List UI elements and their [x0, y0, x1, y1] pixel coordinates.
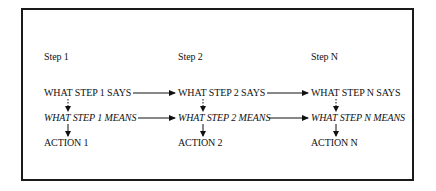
step-1-action: ACTION 1: [44, 137, 88, 149]
step-n-means: WHAT STEP N MEANS: [311, 112, 405, 124]
step-2-means: WHAT STEP 2 MEANS: [178, 112, 270, 124]
step-n-label: Step N: [311, 51, 338, 63]
step-1-label: Step 1: [44, 51, 69, 63]
step-2-says: WHAT STEP 2 SAYS: [178, 87, 265, 99]
step-1-says: WHAT STEP 1 SAYS: [44, 87, 131, 99]
step-2-label: Step 2: [178, 51, 203, 63]
step-n-says: WHAT STEP N SAYS: [311, 87, 400, 99]
step-n-action: ACTION N: [311, 137, 358, 149]
step-1-means: WHAT STEP 1 MEANS: [44, 112, 136, 124]
step-2-action: ACTION 2: [178, 137, 222, 149]
